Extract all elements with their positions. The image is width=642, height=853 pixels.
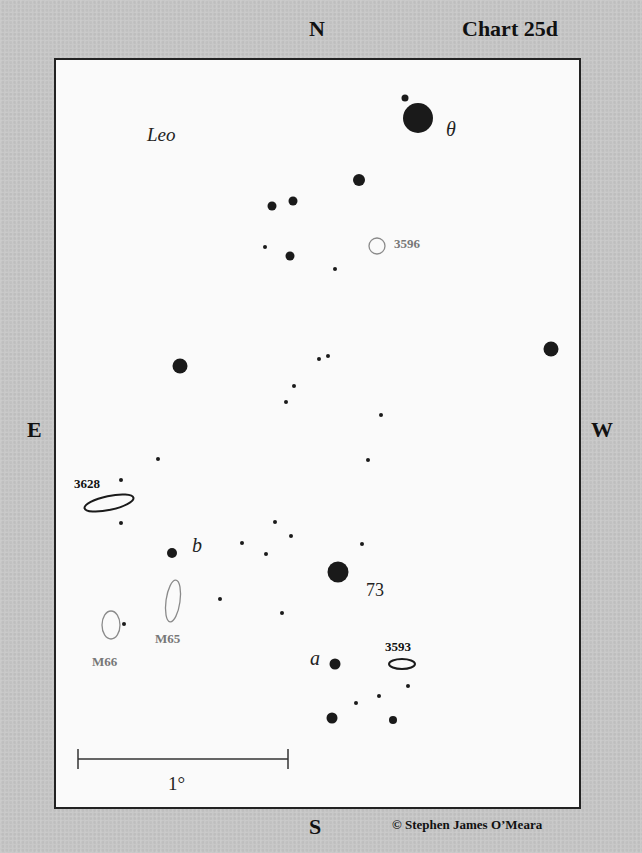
object-label-ngc3628: 3628 bbox=[74, 476, 100, 492]
galaxy-outline-ngc3596 bbox=[369, 238, 385, 254]
object-label-m65: M65 bbox=[155, 631, 180, 647]
constellation-label: Leo bbox=[147, 124, 176, 146]
star-field bbox=[56, 60, 579, 807]
star-marker bbox=[289, 534, 293, 538]
star-label-theta: θ bbox=[446, 118, 456, 141]
star-marker bbox=[402, 95, 409, 102]
star-marker bbox=[389, 716, 397, 724]
star-marker bbox=[326, 354, 330, 358]
object-label-ngc3593: 3593 bbox=[385, 639, 411, 655]
star-marker bbox=[173, 359, 188, 374]
star-marker bbox=[330, 659, 341, 670]
star-marker bbox=[544, 342, 559, 357]
star-marker bbox=[366, 458, 370, 462]
star-chart-panel bbox=[54, 58, 581, 809]
galaxy-outline-m66 bbox=[102, 611, 120, 639]
chart-title: Chart 25d bbox=[462, 16, 558, 42]
star-marker bbox=[218, 597, 222, 601]
star-marker bbox=[406, 684, 410, 688]
star-marker bbox=[377, 694, 381, 698]
direction-west-label: W bbox=[591, 417, 613, 443]
star-marker bbox=[327, 713, 338, 724]
star-marker bbox=[403, 103, 433, 133]
star-marker bbox=[286, 252, 295, 261]
star-label-a: a bbox=[310, 647, 320, 670]
star-label-b: b bbox=[192, 534, 202, 557]
star-marker bbox=[379, 413, 383, 417]
object-label-m66: M66 bbox=[92, 654, 117, 670]
direction-south-label: S bbox=[309, 814, 321, 840]
star-marker bbox=[156, 457, 160, 461]
star-marker bbox=[328, 562, 349, 583]
star-marker bbox=[280, 611, 284, 615]
star-marker bbox=[264, 552, 268, 556]
galaxy-outline-m65 bbox=[163, 579, 183, 623]
direction-east-label: E bbox=[27, 417, 42, 443]
star-marker bbox=[240, 541, 244, 545]
star-marker bbox=[167, 548, 177, 558]
star-label-73: 73 bbox=[366, 580, 384, 601]
star-marker bbox=[122, 622, 126, 626]
star-marker bbox=[317, 357, 321, 361]
star-marker bbox=[263, 245, 267, 249]
star-marker bbox=[119, 478, 123, 482]
star-marker bbox=[284, 400, 288, 404]
star-marker bbox=[360, 542, 364, 546]
object-label-ngc3596: 3596 bbox=[394, 236, 420, 252]
star-marker bbox=[289, 197, 298, 206]
scale-bar-label: 1° bbox=[168, 773, 185, 795]
star-marker bbox=[292, 384, 296, 388]
galaxy-outline-ngc3593 bbox=[389, 659, 415, 669]
galaxy-outline-ngc3628 bbox=[83, 491, 135, 515]
star-marker bbox=[119, 521, 123, 525]
star-marker bbox=[268, 202, 277, 211]
star-marker bbox=[353, 174, 365, 186]
star-marker bbox=[273, 520, 277, 524]
direction-north-label: N bbox=[309, 16, 325, 42]
copyright-text: © Stephen James O’Meara bbox=[392, 817, 542, 833]
star-marker bbox=[354, 701, 358, 705]
star-marker bbox=[333, 267, 337, 271]
